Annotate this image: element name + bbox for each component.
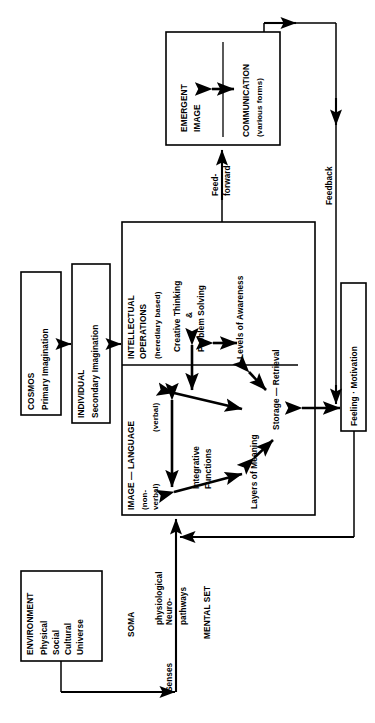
layers-of-meaning-label: Layers of Meaning — [249, 434, 259, 509]
neuro-label-line1: Neuro- — [165, 598, 174, 625]
feed-forward-label-line1: Feed- — [211, 173, 220, 196]
cosmos-label-primary-imagination: Primary Imagination — [40, 328, 50, 410]
intellect-heading-line2: OPERATIONS — [138, 303, 148, 359]
senses-label: Senses — [165, 662, 174, 692]
environment-label-universe: Universe — [75, 619, 85, 655]
image-language-headings: IMAGE — LANGUAGE (non- verbal) (verbal) — [126, 402, 160, 510]
storage-retrieval-label: Storage — Retrieval — [271, 349, 281, 430]
feed-forward-label-line2: forward — [223, 165, 232, 196]
integrative-label: Integrative — [191, 446, 201, 489]
intellect-subheading: (herediary based) — [153, 291, 162, 359]
diagram-page: ENVIRONMENT Physical Social Cultural Uni… — [0, 0, 375, 723]
communication-label-line2: (various forms) — [255, 78, 264, 137]
ampersand-label: & — [184, 312, 194, 318]
image-language-nonverbal-line1: (non- — [140, 490, 149, 510]
feeling-motivation-box: Feeling · Motivation — [341, 283, 366, 431]
environment-label-social: Social — [51, 630, 61, 655]
environment-label-physical: Physical — [39, 621, 49, 655]
image-language-heading: IMAGE — LANGUAGE — [126, 420, 136, 510]
environment-label-cultural: Cultural — [63, 623, 73, 655]
intellect-items: Creative Thinking & Problem Solving Leve… — [172, 275, 281, 509]
feedback-label: Feedback — [325, 166, 334, 205]
image-language-verbal: (verbal) — [151, 402, 160, 432]
image-language-nonverbal-line2: verbal) — [151, 483, 160, 510]
flow-diagram-canvas: ENVIRONMENT Physical Social Cultural Uni… — [0, 0, 375, 723]
sensory-pathway: Senses Neuro- physiological pathways SOM… — [126, 519, 212, 692]
cosmos-label-title: COSMOS — [26, 372, 36, 410]
individual-label-secondary-imagination: Secondary Imagination — [90, 325, 100, 418]
individual-box: INDIVIDUAL Secondary Imagination — [72, 264, 110, 423]
environment-box: ENVIRONMENT Physical Social Cultural Uni… — [21, 571, 102, 661]
creative-thinking-label: Creative Thinking — [172, 281, 182, 352]
emergent-image-communication-box: EMERGENT IMAGE COMMUNICATION (various fo… — [166, 32, 280, 145]
mental-set-label: MENTAL SET — [202, 586, 212, 639]
levels-of-awareness-label: Levels of Awareness — [235, 275, 245, 359]
feeling-motivation-label: Feeling · Motivation — [349, 346, 359, 426]
neuro-label-line3: pathways — [179, 587, 188, 625]
individual-label-title: INDIVIDUAL — [76, 370, 86, 418]
emergent-image-label-line1: EMERGENT — [179, 84, 189, 132]
intellect-headings: INTELLECTUAL OPERATIONS (herediary based… — [126, 291, 162, 359]
soma-label: SOMA — [126, 612, 136, 637]
feed-forward-path: Feed- forward — [211, 150, 232, 222]
intellect-main-box — [122, 222, 315, 515]
intellect-heading-line1: INTELLECTUAL — [126, 295, 136, 359]
emergent-image-label-line2: IMAGE — [192, 104, 202, 132]
environment-label-title: ENVIRONMENT — [25, 593, 35, 655]
cosmos-box: COSMOS Primary Imagination — [21, 272, 61, 415]
feedback-path: Feedback — [264, 23, 336, 404]
communication-label-line1: COMMUNICATION — [241, 64, 251, 137]
problem-solving-label: Problem Solving — [196, 285, 206, 352]
neuro-label-line2: physiological — [155, 571, 164, 625]
environment-to-senses-connector — [61, 661, 175, 692]
